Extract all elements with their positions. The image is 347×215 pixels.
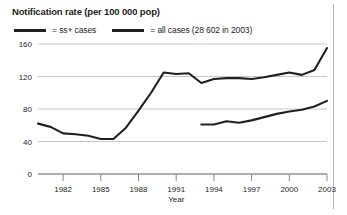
- series-line-all-cases: [38, 48, 327, 139]
- x-tick-label-2000: 2000: [280, 185, 298, 194]
- x-axis-tick-labels: 19821985198819911994199720002003: [54, 185, 336, 194]
- series-line-ss-cases: [201, 101, 327, 125]
- x-tick-label-2003: 2003: [318, 185, 336, 194]
- x-tick-label-1994: 1994: [205, 185, 223, 194]
- y-tick-label-40: 40: [23, 138, 32, 147]
- y-tick-label-80: 80: [23, 105, 32, 114]
- y-axis-tick-labels: 04080120160: [19, 40, 33, 179]
- x-tick-label-1982: 1982: [54, 185, 72, 194]
- x-axis-title: Year: [168, 195, 185, 204]
- x-tick-label-1988: 1988: [130, 185, 148, 194]
- y-tick-label-120: 120: [19, 73, 33, 82]
- x-tick-label-1997: 1997: [243, 185, 261, 194]
- x-axis-ticks: [63, 174, 327, 181]
- x-tick-label-1985: 1985: [92, 185, 110, 194]
- gridlines-group: [38, 44, 327, 174]
- y-tick-label-0: 0: [28, 170, 33, 179]
- plot-area: 04080120160 1982198519881991199419972000…: [0, 0, 347, 215]
- x-tick-label-1991: 1991: [167, 185, 185, 194]
- series-lines-group: [38, 48, 327, 139]
- chart-figure: Notification rate (per 100 000 pop) = ss…: [0, 0, 347, 215]
- y-tick-label-160: 160: [19, 40, 33, 49]
